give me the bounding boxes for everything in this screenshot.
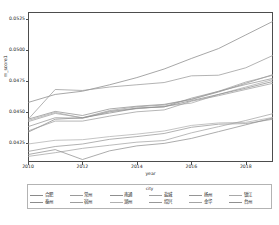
x-tick-label: 2016 bbox=[185, 165, 197, 170]
legend-item-label: 镇江 bbox=[244, 193, 252, 197]
legend-item-宿州[interactable]: 宿州 bbox=[70, 200, 110, 204]
legend-item-台州[interactable]: 台州 bbox=[229, 200, 269, 204]
legend-line-swatch-icon bbox=[70, 195, 83, 196]
line-chart-figure: m_score1 0.04250.04500.04750.05000.0525 … bbox=[0, 0, 279, 225]
series-line bbox=[28, 118, 273, 160]
legend-item-泰州[interactable]: 泰州 bbox=[30, 200, 70, 204]
legend-line-swatch-icon bbox=[110, 195, 123, 196]
series-line bbox=[28, 75, 273, 120]
legend-line-swatch-icon bbox=[229, 202, 242, 203]
legend-item-南通[interactable]: 南通 bbox=[110, 193, 150, 197]
legend-title: city bbox=[30, 186, 269, 191]
series-line bbox=[28, 55, 273, 119]
legend-item-label: 台州 bbox=[244, 200, 252, 204]
legend-item-扬州[interactable]: 扬州 bbox=[189, 193, 229, 197]
legend-item-label: 盐城 bbox=[164, 193, 172, 197]
legend-item-金华[interactable]: 金华 bbox=[189, 200, 229, 204]
legend: city 合肥常州南通盐城扬州镇江泰州宿州湖州绍兴金华台州 bbox=[27, 184, 272, 209]
series-line bbox=[28, 81, 273, 132]
y-tick-label: 0.0525 bbox=[9, 17, 25, 22]
legend-line-swatch-icon bbox=[70, 202, 83, 203]
x-tick-label: 2012 bbox=[77, 165, 89, 170]
x-axis-title: year bbox=[28, 172, 273, 177]
legend-line-swatch-icon bbox=[110, 202, 123, 203]
legend-item-label: 金华 bbox=[204, 200, 212, 204]
legend-item-镇江[interactable]: 镇江 bbox=[229, 193, 269, 197]
legend-item-label: 宿州 bbox=[84, 200, 92, 204]
legend-line-swatch-icon bbox=[30, 195, 43, 196]
x-tick-label: 2014 bbox=[131, 165, 143, 170]
legend-item-label: 绍兴 bbox=[164, 200, 172, 204]
legend-item-label: 泰州 bbox=[45, 200, 53, 204]
legend-rows: 合肥常州南通盐城扬州镇江泰州宿州湖州绍兴金华台州 bbox=[30, 192, 269, 206]
series-lines bbox=[28, 12, 273, 162]
legend-line-swatch-icon bbox=[189, 202, 202, 203]
legend-line-swatch-icon bbox=[149, 202, 162, 203]
x-tick-label: 2010 bbox=[22, 165, 34, 170]
legend-item-label: 合肥 bbox=[45, 193, 53, 197]
legend-line-swatch-icon bbox=[189, 195, 202, 196]
legend-item-常州[interactable]: 常州 bbox=[70, 193, 110, 197]
series-line bbox=[28, 119, 273, 151]
series-line bbox=[28, 80, 273, 121]
y-tick-label: 0.0475 bbox=[9, 79, 25, 84]
legend-item-湖州[interactable]: 湖州 bbox=[110, 200, 150, 204]
legend-line-swatch-icon bbox=[30, 202, 43, 203]
y-tick-label: 0.0450 bbox=[9, 109, 25, 114]
legend-row: 合肥常州南通盐城扬州镇江 bbox=[30, 192, 269, 199]
legend-line-swatch-icon bbox=[149, 195, 162, 196]
y-axis-tick-labels: 0.04250.04500.04750.05000.0525 bbox=[0, 12, 25, 162]
y-tick-label: 0.0425 bbox=[9, 140, 25, 145]
legend-item-label: 湖州 bbox=[124, 200, 132, 204]
legend-item-label: 南通 bbox=[124, 193, 132, 197]
x-tick-label: 2018 bbox=[240, 165, 252, 170]
legend-item-label: 扬州 bbox=[204, 193, 212, 197]
plot-area bbox=[28, 12, 273, 162]
legend-item-label: 常州 bbox=[84, 193, 92, 197]
legend-item-盐城[interactable]: 盐城 bbox=[149, 193, 189, 197]
legend-row: 泰州宿州湖州绍兴金华台州 bbox=[30, 199, 269, 206]
legend-item-合肥[interactable]: 合肥 bbox=[30, 193, 70, 197]
legend-item-绍兴[interactable]: 绍兴 bbox=[149, 200, 189, 204]
legend-line-swatch-icon bbox=[229, 195, 242, 196]
y-tick-label: 0.0500 bbox=[9, 48, 25, 53]
